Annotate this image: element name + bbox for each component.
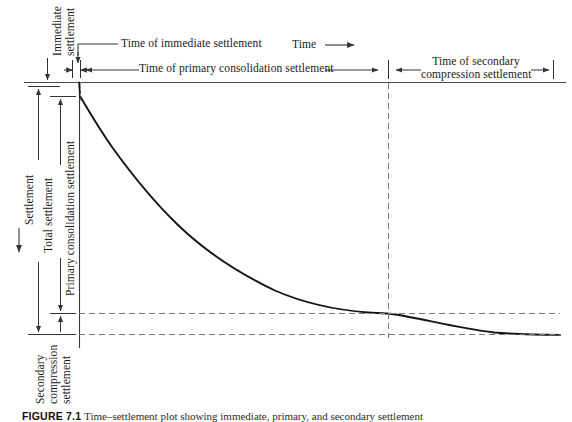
label-secondary-line1: Time of secondary <box>421 55 531 68</box>
label-secondary-compression-line2: compression <box>47 345 59 404</box>
label-total-settlement: Total settlement <box>42 178 54 253</box>
leader-time-of-immediate-settlement <box>78 44 118 56</box>
label-time-of-primary-consolidation-settlement: Time of primary consolidation settlement <box>139 62 325 76</box>
label-primary-consolidation-settlement: Primary consolidation settlement <box>64 141 76 296</box>
figure-caption-number: FIGURE 7.1 <box>22 410 81 422</box>
label-secondary-line2: compression settlement <box>421 68 531 81</box>
label-immediate-settlement-line1: Immediate <box>51 6 63 56</box>
label-settlement-axis: Settlement <box>23 175 35 225</box>
settlement-curve <box>79 83 560 335</box>
label-secondary-compression-line1: Secondary <box>34 355 46 404</box>
figure-caption: FIGURE 7.1 Time–settlement plot showing … <box>22 410 562 422</box>
label-time-of-immediate-settlement: Time of immediate settlement <box>121 37 262 51</box>
figure-container: Time of immediate settlement Time Time o… <box>0 0 572 422</box>
figure-caption-text: Time–settlement plot showing immediate, … <box>84 410 423 422</box>
label-immediate-settlement-line2: settlement <box>64 8 76 56</box>
label-secondary-compression-line3: settlement <box>60 356 72 404</box>
label-time-axis: Time <box>292 38 316 52</box>
label-time-of-secondary-compression-settlement: Time of secondary compression settlement <box>421 55 531 81</box>
